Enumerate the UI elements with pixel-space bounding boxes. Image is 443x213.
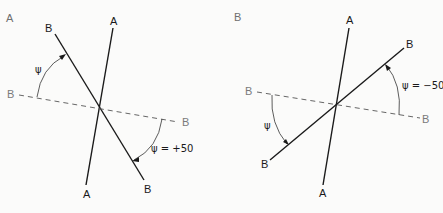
solid-b-top-label: B — [406, 38, 413, 50]
dashed-b-left-label: B — [245, 85, 252, 97]
psi-arc-upper — [386, 65, 399, 115]
axis-a-line — [323, 28, 349, 185]
psi-lower-label: ψ = +50 — [151, 143, 193, 154]
dashed-b-left-label: B — [7, 88, 14, 100]
dashed-b-right-label: B — [182, 116, 189, 128]
dashed-b-line — [257, 92, 420, 118]
axis-a-bottom-label: A — [319, 187, 327, 199]
arrowhead-icon — [59, 54, 66, 60]
psi-arc-upper — [37, 56, 64, 97]
panel-b-label: B — [234, 11, 241, 23]
solid-b-bottom-label: B — [144, 183, 151, 195]
psi-upper-label: ψ — [35, 64, 42, 75]
panel-b: B A A B B B B ψ = −50 ψ — [234, 11, 443, 199]
solid-b-line — [270, 48, 404, 160]
axis-a-top-label: A — [110, 15, 118, 27]
psi-upper-label: ψ = −50 — [402, 80, 443, 91]
psi-angle-diagram: A A A B B B B ψ ψ = +50 B A A B B B — [0, 0, 443, 213]
solid-b-top-label: B — [45, 22, 52, 34]
solid-b-line — [55, 34, 144, 180]
psi-lower-label: ψ — [264, 120, 271, 131]
dashed-b-right-label: B — [422, 113, 429, 125]
axis-a-bottom-label: A — [83, 188, 91, 200]
panel-a-label: A — [6, 12, 14, 24]
solid-b-bottom-label: B — [261, 158, 268, 170]
psi-arc-lower — [272, 95, 287, 144]
panel-a: A A A B B B B ψ ψ = +50 — [6, 12, 193, 200]
axis-a-top-label: A — [346, 14, 354, 26]
